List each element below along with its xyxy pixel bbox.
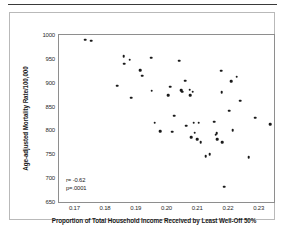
scatter-point bbox=[254, 116, 257, 119]
scatter-point bbox=[184, 80, 187, 83]
x-axis-tick-label: 0.21 bbox=[192, 205, 203, 211]
x-axis-tick-label: 0.19 bbox=[130, 205, 141, 211]
x-axis-tick-label: 0.23 bbox=[253, 205, 264, 211]
scatter-point bbox=[150, 90, 153, 93]
x-axis-title: Proportion of Total Household Income Rec… bbox=[30, 217, 278, 224]
scatter-point bbox=[141, 74, 144, 77]
y-axis-tick-label: 750 bbox=[46, 151, 55, 157]
figure-card: r= -0.62 p=.0001 65070075080085090095010… bbox=[9, 12, 275, 220]
scatter-point bbox=[150, 57, 153, 60]
scatter-point bbox=[154, 121, 157, 124]
y-axis-tick-label: 700 bbox=[46, 175, 55, 181]
scatter-point bbox=[216, 138, 219, 141]
scatter-point bbox=[208, 153, 211, 156]
y-axis-tick-label: 900 bbox=[46, 80, 55, 86]
scatter-point bbox=[139, 69, 142, 72]
scatter-point bbox=[230, 80, 233, 83]
figure-root: r= -0.62 p=.0001 65070075080085090095010… bbox=[0, 0, 285, 232]
scatter-point bbox=[169, 85, 172, 88]
stats-annotation: r= -0.62 p=.0001 bbox=[66, 176, 86, 193]
top-horizontal-rule bbox=[8, 4, 277, 5]
x-axis-tick-label: 0.17 bbox=[69, 205, 80, 211]
scatter-point bbox=[90, 39, 93, 42]
y-axis-tick-label: 650 bbox=[46, 199, 55, 205]
scatter-point bbox=[269, 123, 272, 126]
scatter-point bbox=[196, 138, 199, 141]
scatter-point bbox=[248, 156, 251, 159]
scatter-point bbox=[213, 121, 216, 124]
x-axis-tick-label: 0.18 bbox=[100, 205, 111, 211]
scatter-point bbox=[235, 75, 238, 78]
y-axis-title: Age-adjusted Mortality Rate/100,000 bbox=[20, 34, 31, 203]
scatter-point bbox=[193, 132, 196, 135]
x-axis-tick-label: 0.20 bbox=[161, 205, 172, 211]
scatter-point bbox=[171, 131, 174, 134]
scatter-point bbox=[178, 59, 181, 62]
y-axis-tick-label: 800 bbox=[46, 127, 55, 133]
scatter-point bbox=[173, 114, 176, 117]
plot-surface bbox=[59, 35, 274, 202]
y-axis-tick-label: 1000 bbox=[42, 32, 55, 38]
scatter-point bbox=[220, 69, 223, 72]
scatter-point bbox=[116, 84, 119, 87]
scatter-point bbox=[228, 110, 231, 113]
correlation-value: r= -0.62 bbox=[66, 176, 86, 185]
scatter-point bbox=[200, 141, 203, 144]
scatter-point bbox=[130, 96, 133, 99]
scatter-point bbox=[167, 94, 170, 97]
scatter-plot-frame: r= -0.62 p=.0001 65070075080085090095010… bbox=[58, 34, 275, 203]
scatter-point bbox=[123, 62, 126, 65]
scatter-point bbox=[205, 155, 208, 158]
scatter-point bbox=[220, 91, 223, 94]
y-axis-tick-label: 850 bbox=[46, 104, 55, 110]
x-axis-tick-label: 0.22 bbox=[222, 205, 233, 211]
scatter-point bbox=[239, 100, 242, 103]
y-axis-tick-label: 950 bbox=[46, 56, 55, 62]
scatter-point bbox=[223, 185, 226, 188]
scatter-point bbox=[181, 90, 184, 93]
scatter-point bbox=[221, 141, 224, 144]
scatter-point bbox=[122, 55, 125, 58]
scatter-point bbox=[185, 124, 188, 127]
scatter-point bbox=[215, 132, 218, 135]
scatter-point bbox=[159, 130, 162, 133]
scatter-point bbox=[84, 38, 87, 41]
scatter-point bbox=[192, 121, 195, 124]
scatter-point bbox=[190, 136, 193, 139]
scatter-point bbox=[197, 121, 200, 124]
scatter-point bbox=[231, 129, 234, 132]
scatter-point bbox=[128, 59, 131, 62]
scatter-point bbox=[189, 94, 192, 97]
pvalue: p=.0001 bbox=[66, 184, 86, 193]
scatter-point bbox=[191, 90, 194, 93]
